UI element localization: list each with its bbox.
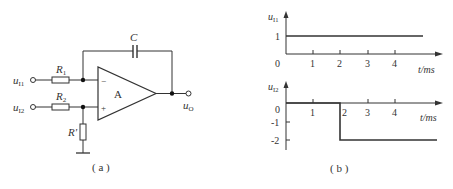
opamp-label: A [114,88,122,100]
capacitor-label: C [130,31,138,43]
x-axis-arrow [435,101,443,106]
xtick-2: 2 [337,58,342,69]
opamp-minus-sign: − [101,76,106,86]
waveform-bottom-labels: uI2 0 -1 -2 1 2 3 4 t/ms ( b ) [268,81,437,175]
xtick-1: 1 [310,58,315,69]
opamp-triangle [98,67,156,120]
r2-label: R2 [55,90,67,104]
junction-dot [170,91,174,95]
y-axis-arrow [284,81,289,88]
input-label-ui2: uI2 [13,101,25,115]
origin-label: 0 [275,58,280,69]
signal-ui2 [286,103,437,140]
resistor-r2 [52,104,69,110]
caption-b: ( b ) [330,162,349,175]
input-terminal-ui2 [31,105,36,110]
resistor-rprime [80,124,86,140]
y-axis-arrow [284,11,289,18]
xtick-4: 4 [392,58,397,69]
x-axis-arrow [435,52,443,57]
circuit-diagram [31,45,192,153]
xtick-3: 3 [365,107,370,118]
xtick-2: 2 [342,107,347,118]
circuit-labels: uI1 uI2 R1 R2 R' C A − + uO ( a ) [13,31,194,174]
ytick-1: 1 [275,31,280,42]
rprime-label: R' [67,126,78,138]
waveform-top-labels: uI1 1 0 1 2 3 4 t/ms [268,11,435,75]
ytick-minus1: -1 [271,117,279,128]
output-terminal-uo [186,91,191,96]
ylabel-ui2: uI2 [268,81,278,93]
xtick-1: 1 [310,107,315,118]
xlabel-bottom: t/ms [420,112,437,123]
caption-a: ( a ) [92,161,110,174]
ytick-0: 0 [275,104,280,115]
junction-dot [81,78,85,82]
ytick-minus2: -2 [271,135,279,146]
input-terminal-ui1 [31,78,36,83]
ylabel-ui1: uI1 [268,11,278,23]
waveform-top [284,11,444,57]
xtick-3: 3 [365,58,370,69]
resistor-r1 [52,77,69,83]
r1-label: R1 [55,63,67,77]
junction-dot [81,105,85,109]
output-label-uo: uO [183,99,194,113]
input-label-ui1: uI1 [13,74,25,88]
xlabel-top: t/ms [418,64,435,75]
opamp-plus-sign: + [101,103,106,113]
xtick-4: 4 [392,107,397,118]
figure-canvas: uI1 uI2 R1 R2 R' C A − + uO ( a ) uI1 1 … [0,0,453,189]
